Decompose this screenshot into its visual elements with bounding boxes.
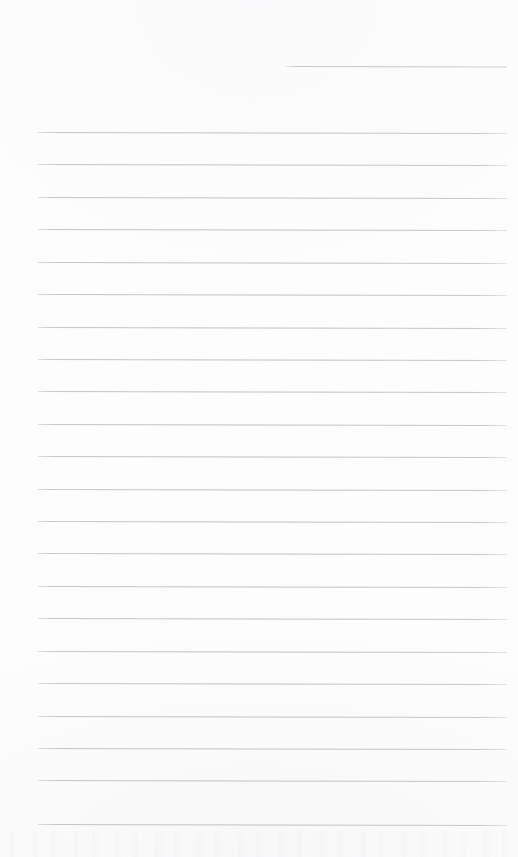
ruled-line bbox=[38, 618, 507, 620]
ruled-line bbox=[38, 489, 507, 491]
ruled-line bbox=[38, 229, 507, 231]
ruled-line bbox=[38, 716, 507, 718]
paper-grain-overlay bbox=[0, 0, 518, 857]
ruled-line bbox=[38, 521, 507, 523]
ruled-line bbox=[38, 391, 507, 393]
ruled-line bbox=[38, 359, 507, 361]
ruled-line bbox=[38, 132, 507, 134]
ruled-line bbox=[38, 553, 507, 555]
ruled-line bbox=[38, 294, 507, 296]
ruled-line bbox=[38, 651, 507, 653]
ruled-line bbox=[38, 164, 507, 166]
ruled-line bbox=[38, 327, 507, 329]
ruled-line bbox=[38, 424, 507, 426]
scan-noise-band bbox=[0, 831, 518, 857]
ruled-line bbox=[38, 586, 507, 588]
ruled-line bbox=[38, 197, 507, 199]
ruled-line bbox=[38, 683, 507, 685]
ruled-line bbox=[38, 780, 507, 782]
ruled-line bbox=[38, 262, 507, 264]
header-rule bbox=[285, 66, 507, 68]
lined-page bbox=[0, 0, 518, 857]
ruled-line bbox=[38, 748, 507, 750]
ruled-line bbox=[38, 456, 507, 458]
ruled-line bbox=[38, 824, 507, 826]
